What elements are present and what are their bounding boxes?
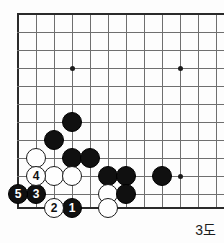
star-point — [178, 174, 183, 179]
grid-line-horizontal — [17, 122, 224, 123]
grid-line-horizontal — [17, 32, 224, 33]
grid-line-horizontal — [17, 68, 224, 69]
go-stone-black — [116, 166, 136, 186]
move-number-label: 4 — [33, 170, 40, 182]
go-stone-black — [116, 184, 136, 204]
go-move-stone-white-2: 2 — [44, 198, 64, 218]
grid-line-vertical — [216, 14, 217, 208]
go-move-stone-black-1: 1 — [62, 198, 82, 218]
move-number-label: 5 — [15, 188, 22, 200]
go-board: 12345 — [0, 0, 224, 243]
grid-line-horizontal — [17, 13, 224, 15]
grid-line-vertical — [90, 14, 91, 208]
grid-line-horizontal — [17, 50, 224, 51]
go-stone-white — [26, 148, 46, 168]
grid-line-horizontal — [17, 158, 224, 159]
grid-line-vertical — [198, 14, 199, 208]
grid-line-vertical — [180, 14, 181, 208]
grid-line-horizontal — [17, 104, 224, 105]
grid-line-horizontal — [17, 86, 224, 87]
move-number-label: 2 — [51, 202, 58, 214]
grid-line-vertical — [17, 14, 19, 208]
go-stone-white — [44, 166, 64, 186]
go-stone-black — [98, 166, 118, 186]
go-move-stone-black-3: 3 — [26, 184, 46, 204]
go-move-stone-black-5: 5 — [8, 184, 28, 204]
diagram-caption: 3도 — [195, 219, 217, 239]
grid-line-vertical — [144, 14, 145, 208]
go-stone-black — [62, 148, 82, 168]
go-diagram: 12345 3도 — [0, 0, 224, 243]
go-stone-black — [62, 112, 82, 132]
star-point — [178, 66, 183, 71]
go-stone-white — [98, 198, 118, 218]
move-number-label: 3 — [33, 188, 40, 200]
move-number-label: 1 — [69, 202, 76, 214]
go-stone-black — [80, 148, 100, 168]
go-stone-black — [152, 166, 172, 186]
go-stone-black — [44, 130, 64, 150]
go-stone-white — [62, 166, 82, 186]
star-point — [70, 66, 75, 71]
go-move-stone-white-4: 4 — [26, 166, 46, 186]
